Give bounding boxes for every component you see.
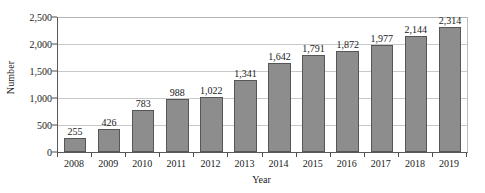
bar: 426 [98,129,120,152]
bar: 988 [166,99,188,152]
bar-value-label: 1,791 [302,43,325,54]
bar-value-label: 1,872 [336,39,359,50]
bar-value-label: 1,642 [268,51,291,62]
bar-value-label: 1,977 [371,33,394,44]
x-axis-tick-label: 2009 [98,158,118,169]
bars-layer: 2554267839881,0221,3411,6421,7911,8721,9… [58,17,467,152]
x-axis-tick-label: 2017 [371,158,391,169]
bar: 1,642 [268,63,290,152]
x-axis-tick-mark [193,153,194,157]
x-axis-tick-label: 2019 [439,158,459,169]
x-axis-tick-labels: 2008200920102011201220132014201520162017… [57,158,466,172]
bar-value-label: 1,022 [200,85,223,96]
bar-value-label: 1,341 [234,68,257,79]
bar-value-label: 988 [170,87,185,98]
x-axis-tick-mark [296,153,297,157]
x-axis-tick-label: 2011 [166,158,186,169]
x-axis-tick-mark [91,153,92,157]
x-axis-tick-label: 2015 [303,158,323,169]
bar: 1,791 [302,55,324,152]
y-axis-tick-label: 1,500 [30,66,53,77]
y-axis-tick-label: 2,000 [30,39,53,50]
x-axis-tick-mark [330,153,331,157]
x-axis-tick-mark [159,153,160,157]
bar-value-label: 2,314 [439,15,462,26]
x-axis-tick-label: 2018 [405,158,425,169]
bar: 1,341 [234,80,256,152]
bar-value-label: 426 [102,117,117,128]
x-axis-tick-mark [466,153,467,157]
bar: 783 [132,110,154,152]
bar: 1,022 [200,97,222,152]
x-axis-tick-label: 2010 [132,158,152,169]
x-axis-tick-mark [364,153,365,157]
x-axis-tick-mark [227,153,228,157]
bar: 1,977 [371,45,393,152]
y-axis-tick-labels: 05001,0001,5002,0002,500 [20,0,52,155]
bar-value-label: 783 [136,98,151,109]
plot-area: 2554267839881,0221,3411,6421,7911,8721,9… [57,17,468,153]
x-axis-tick-mark [262,153,263,157]
bar-chart: Number 05001,0001,5002,0002,500 25542678… [0,0,485,193]
bar-value-label: 255 [68,126,83,137]
y-axis-tick-label: 2,500 [30,12,53,23]
x-axis-tick-mark [57,153,58,157]
bar: 2,144 [405,36,427,152]
bar: 2,314 [439,27,461,152]
x-axis-tick-mark [125,153,126,157]
y-axis-title-label: Number [6,61,17,94]
x-axis-tick-label: 2008 [64,158,84,169]
bar-value-label: 2,144 [405,24,428,35]
x-axis-tick-label: 2014 [269,158,289,169]
bar: 255 [64,138,86,152]
x-axis-tick-mark [432,153,433,157]
x-axis-title: Year [57,174,466,185]
bar: 1,872 [336,51,358,152]
y-axis-tick-label: 1,000 [30,93,53,104]
y-axis-title: Number [2,0,20,155]
x-axis-tick-mark [398,153,399,157]
x-axis-tick-label: 2013 [234,158,254,169]
y-axis-tick-label: 500 [37,120,52,131]
x-axis-tick-label: 2012 [200,158,220,169]
x-axis-tick-label: 2016 [337,158,357,169]
